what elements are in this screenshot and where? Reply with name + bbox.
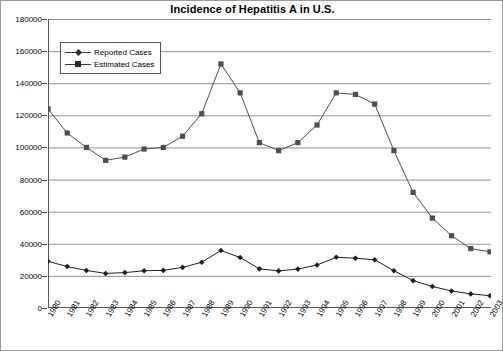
y-tick-label: 80000 bbox=[20, 175, 42, 184]
y-tick-mark bbox=[42, 19, 47, 20]
legend-label-reported-cases: Reported Cases bbox=[94, 48, 152, 57]
chart-legend: Reported Cases Estimated Cases bbox=[60, 42, 161, 74]
chart-container: Incidence of Hepatitis A in U.S. 0200004… bbox=[0, 0, 503, 351]
y-tick-label: 140000 bbox=[15, 79, 42, 88]
chart-title: Incidence of Hepatitis A in U.S. bbox=[1, 3, 503, 15]
y-tick-label: 180000 bbox=[15, 15, 42, 24]
y-tick-mark bbox=[42, 308, 47, 309]
y-tick-mark bbox=[42, 244, 47, 245]
y-tick-label: 120000 bbox=[15, 111, 42, 120]
y-tick-label: 100000 bbox=[15, 143, 42, 152]
legend-marker-diamond-icon bbox=[65, 47, 91, 57]
legend-item-estimated-cases: Estimated Cases bbox=[65, 58, 154, 70]
y-tick-mark bbox=[42, 115, 47, 116]
y-tick-mark bbox=[42, 51, 47, 52]
y-tick-mark bbox=[42, 147, 47, 148]
legend-item-reported-cases: Reported Cases bbox=[65, 46, 154, 58]
y-tick-mark bbox=[42, 180, 47, 181]
y-tick-mark bbox=[42, 212, 47, 213]
legend-marker-square-icon bbox=[65, 59, 91, 69]
y-tick-mark bbox=[42, 276, 47, 277]
legend-label-estimated-cases: Estimated Cases bbox=[94, 60, 154, 69]
y-tick-label: 160000 bbox=[15, 47, 42, 56]
x-axis-tick-labels: 1980198119821983198419851986198719881989… bbox=[48, 308, 491, 351]
y-tick-label: 20000 bbox=[20, 271, 42, 280]
y-axis-tick-labels: 0200004000060000800001000001200001400001… bbox=[1, 19, 42, 308]
y-tick-mark bbox=[42, 83, 47, 84]
y-tick-label: 60000 bbox=[20, 207, 42, 216]
y-tick-label: 40000 bbox=[20, 239, 42, 248]
